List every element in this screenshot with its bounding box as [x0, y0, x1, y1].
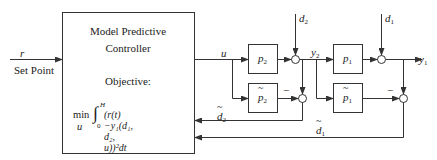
controller-title-line2: Controller: [62, 42, 194, 54]
u-label: u: [221, 47, 227, 59]
p2-label: p2: [258, 52, 267, 66]
minus-sign-1: −: [283, 84, 289, 96]
y2-label: y2: [311, 46, 319, 60]
objective-min: min: [73, 109, 89, 120]
objective-var: u: [77, 121, 82, 132]
r-label: r: [20, 47, 24, 59]
minus-sign-2: −: [387, 84, 393, 96]
d1-label: d1: [385, 12, 394, 26]
objective-expression: (r(t)−y₁(d₁, d₂, u))²dt: [104, 109, 133, 153]
summing-junction-2: [299, 95, 307, 103]
summing-junction-4: [400, 95, 408, 103]
controller-title-line1: Model Predictive: [62, 25, 194, 37]
p1-label: p1: [343, 52, 352, 66]
y1-label: y1: [419, 53, 427, 67]
p2-model-label: p2: [258, 91, 267, 105]
u-branch-line: [233, 60, 249, 99]
d2-label: d2: [299, 12, 308, 26]
summing-junction-1: [292, 56, 300, 64]
summing-junction-3: [378, 56, 386, 64]
d1-estimate-label: d1: [316, 124, 325, 138]
d2-estimate-label: d2: [217, 110, 226, 124]
objective-label: Objective:: [62, 75, 194, 87]
setpoint-label: Set Point: [14, 64, 54, 76]
integral-sign: ∫: [93, 103, 98, 124]
integral-upper: H: [100, 101, 105, 109]
p1-model-label: p1: [343, 91, 352, 105]
integral-lower: 0: [97, 122, 101, 130]
